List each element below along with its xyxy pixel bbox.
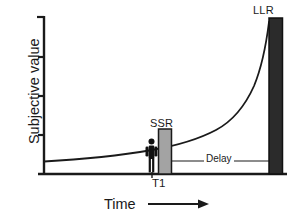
discounting-figure: Subjective value Time SSR LLR T1 Delay (0, 0, 293, 222)
llr-bar (269, 18, 283, 174)
delay-label: Delay (204, 154, 234, 164)
discounting-curve (44, 22, 269, 162)
right-arrow-icon (148, 200, 209, 209)
ssr-bar (159, 129, 172, 174)
t1-label: T1 (152, 178, 165, 190)
person-silhouette-icon (146, 139, 158, 173)
llr-label: LLR (253, 5, 274, 16)
plot-canvas (0, 0, 293, 222)
x-axis-title: Time (104, 197, 136, 212)
y-axis-title: Subjective value (27, 21, 42, 161)
ssr-label: SSR (150, 118, 173, 129)
